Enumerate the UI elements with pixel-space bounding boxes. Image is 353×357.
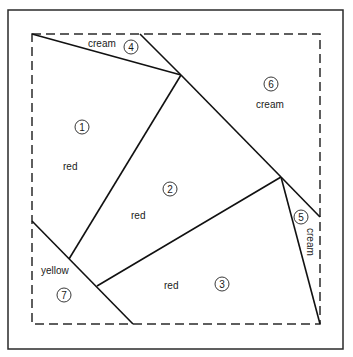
piece-number: 2 bbox=[167, 184, 173, 195]
piece-6: 6 cream bbox=[256, 77, 284, 110]
piece-number: 5 bbox=[298, 212, 304, 223]
piece-number: 6 bbox=[268, 79, 274, 90]
piece-number: 7 bbox=[61, 290, 67, 301]
piece-color-label: red bbox=[164, 280, 178, 291]
piece-color-label: cream bbox=[256, 99, 284, 110]
piece-1: 1 red bbox=[63, 120, 89, 172]
piece-color-label: cream bbox=[305, 228, 316, 256]
piece-color-label: red bbox=[63, 161, 77, 172]
piece-number: 1 bbox=[79, 122, 85, 133]
piece-3: 3 red bbox=[164, 277, 229, 291]
divider-line bbox=[97, 177, 281, 286]
piece-7: 7 yellow bbox=[41, 265, 71, 302]
piece-color-label: cream bbox=[88, 38, 116, 49]
piece-number: 4 bbox=[128, 42, 134, 53]
piece-5: 5 cream bbox=[294, 210, 316, 256]
quilt-block-diagram: 1 red 2 red 3 red 4 cream 5 cream 6 crea… bbox=[0, 0, 353, 357]
divider-line bbox=[181, 75, 281, 177]
piece-number: 3 bbox=[219, 279, 225, 290]
divider-line bbox=[69, 75, 181, 259]
piece-color-label: yellow bbox=[41, 265, 70, 276]
piece-2: 2 red bbox=[131, 182, 177, 221]
piece-color-label: red bbox=[131, 210, 145, 221]
